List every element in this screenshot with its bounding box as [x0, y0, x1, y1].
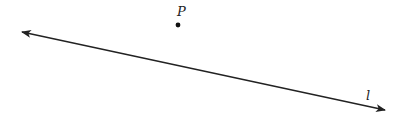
- line-l: [22, 32, 385, 110]
- diagram-canvas: P l: [0, 0, 402, 119]
- point-p-dot: [176, 23, 181, 28]
- geometry-figure: P l: [0, 0, 402, 119]
- point-p-label: P: [176, 4, 186, 19]
- line-l-label: l: [366, 88, 370, 103]
